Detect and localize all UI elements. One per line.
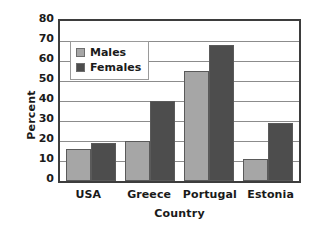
y-tick-label: 80 (28, 13, 54, 25)
bar-estonia-males (243, 159, 268, 181)
y-tick-label: 0 (28, 173, 54, 185)
legend-swatch-icon (76, 48, 85, 57)
bar-group (238, 21, 297, 181)
x-tick-label-estonia: Estonia (240, 188, 301, 204)
legend-entry-females: Females (76, 60, 141, 75)
legend-swatch-icon (76, 63, 85, 72)
y-tick-label: 20 (28, 133, 54, 145)
bar-usa-females (91, 143, 116, 181)
bar-chart-figure: Percent 01020304050607080 MalesFemales U… (0, 0, 320, 238)
bar-portugal-males (184, 71, 209, 181)
bar-group (180, 21, 239, 181)
chart-legend: MalesFemales (70, 41, 149, 80)
bar-greece-females (150, 101, 175, 181)
legend-entry-males: Males (76, 45, 141, 60)
x-axis-tick-labels: USAGreecePortugalEstonia (58, 188, 301, 204)
x-tick-label-portugal: Portugal (180, 188, 241, 204)
y-tick-label: 40 (28, 93, 54, 105)
legend-label: Males (90, 46, 126, 59)
y-tick-label: 50 (28, 73, 54, 85)
y-tick-label: 30 (28, 113, 54, 125)
legend-label: Females (90, 61, 141, 74)
bar-usa-males (66, 149, 91, 181)
bar-greece-males (125, 141, 150, 181)
bar-estonia-females (268, 123, 293, 181)
x-tick-label-greece: Greece (119, 188, 180, 204)
y-tick-label: 60 (28, 53, 54, 65)
bar-portugal-females (209, 45, 234, 181)
y-axis-tick-labels: 01020304050607080 (28, 13, 54, 189)
y-tick-label: 10 (28, 153, 54, 165)
x-tick-label-usa: USA (58, 188, 119, 204)
y-tick-label: 70 (28, 33, 54, 45)
x-axis-title: Country (58, 207, 301, 220)
